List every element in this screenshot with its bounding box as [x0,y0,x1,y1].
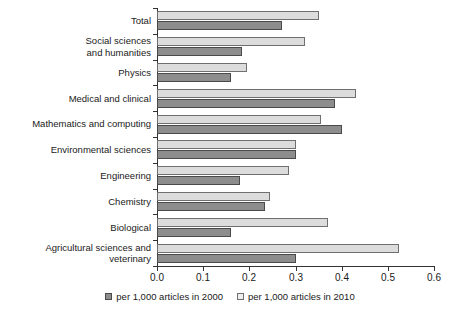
x-axis-tick [249,267,250,271]
x-axis-tick [296,267,297,271]
x-axis-tick-label: 0.0 [137,272,177,283]
legend-swatch-2000 [105,293,112,300]
bar-2010 [157,37,305,46]
x-axis-tick-label: 0.5 [368,272,408,283]
retraction-rate-bar-chart: TotalSocial sciences and humanitiesPhysi… [0,0,460,319]
bar-2010 [157,115,321,124]
x-axis-tick [342,267,343,271]
legend-item-2010: per 1,000 articles in 2010 [237,291,355,302]
bar-2010 [157,63,247,72]
category-label: Biological [110,222,151,234]
bar-2000 [157,254,296,263]
category-label: Physics [118,67,151,79]
x-axis-tick [388,267,389,271]
y-axis-tick [153,60,157,61]
y-axis-tick [153,240,157,241]
x-axis-tick-label: 0.2 [229,272,269,283]
bar-2000 [157,228,231,237]
bar-2000 [157,73,231,82]
y-axis-tick [153,214,157,215]
y-axis-tick [153,137,157,138]
bar-2010 [157,11,319,20]
y-axis-tick [153,34,157,35]
bar-2000 [157,47,242,56]
y-axis-tick [153,189,157,190]
bar-2010 [157,140,296,149]
bar-2010 [157,89,356,98]
bar-2000 [157,150,296,159]
bar-2010 [157,218,328,227]
category-label: Chemistry [108,196,151,208]
bar-2010 [157,166,289,175]
category-label: Engineering [100,170,151,182]
bar-2000 [157,125,342,134]
x-axis-tick-label: 0.4 [322,272,362,283]
bar-2010 [157,192,270,201]
y-axis-tick [153,163,157,164]
y-axis-tick [153,85,157,86]
x-axis-tick [157,267,158,271]
legend-swatch-2010 [237,293,244,300]
bar-2000 [157,176,240,185]
y-axis-tick [153,8,157,9]
bar-2000 [157,202,265,211]
category-label: Social sciences and humanities [86,35,151,58]
category-label: Medical and clinical [69,93,151,105]
bar-2000 [157,99,335,108]
legend-label-2010: per 1,000 articles in 2010 [248,291,355,302]
y-axis-tick [153,111,157,112]
category-label: Agricultural sciences and veterinary [45,242,151,265]
legend-item-2000: per 1,000 articles in 2000 [105,291,223,302]
category-label: Total [131,15,151,27]
bar-2000 [157,21,282,30]
x-axis-tick [434,267,435,271]
category-label: Mathematics and computing [32,118,151,130]
chart-legend: per 1,000 articles in 2000 per 1,000 art… [0,291,460,302]
x-axis-tick-label: 0.1 [183,272,223,283]
x-axis-tick-label: 0.3 [276,272,316,283]
legend-label-2000: per 1,000 articles in 2000 [116,291,223,302]
bar-2010 [157,244,399,253]
x-axis-tick-label: 0.6 [414,272,454,283]
x-axis-tick [203,267,204,271]
category-label: Environmental sciences [51,144,151,156]
